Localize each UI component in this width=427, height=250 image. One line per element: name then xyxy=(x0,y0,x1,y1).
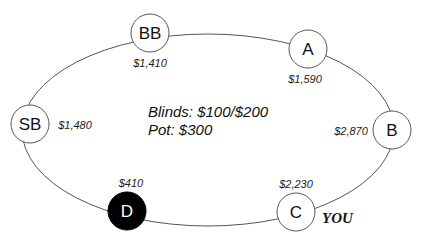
seat-position-label: B xyxy=(386,121,397,140)
seat-stack: $1,480 xyxy=(57,119,93,131)
seat-stack: $410 xyxy=(118,177,144,189)
seat-stack: $2,230 xyxy=(278,178,314,190)
you-label: YOU xyxy=(322,210,354,226)
seat-b: B $2,870 xyxy=(333,111,411,149)
seat-position-label: A xyxy=(302,40,314,59)
seat-stack: $1,410 xyxy=(132,57,168,69)
seat-bb: BB $1,410 xyxy=(131,14,169,69)
seat-stack: $2,870 xyxy=(333,125,369,137)
seat-d-dealer: D $410 xyxy=(108,177,146,230)
poker-table-diagram: BB $1,410 A $1,590 B $2,870 C $2,230 YOU… xyxy=(0,0,427,250)
seat-position-label: C xyxy=(290,203,302,222)
seat-sb: SB $1,480 xyxy=(11,105,93,143)
blinds-text: Blinds: $100/$200 xyxy=(148,103,269,120)
seat-position-label: D xyxy=(121,202,133,221)
pot-text: Pot: $300 xyxy=(148,121,213,138)
seat-c: C $2,230 YOU xyxy=(277,178,354,231)
seat-stack: $1,590 xyxy=(287,73,323,85)
seat-position-label: BB xyxy=(139,24,162,43)
seat-a: A $1,590 xyxy=(287,30,327,85)
seat-position-label: SB xyxy=(19,115,42,134)
